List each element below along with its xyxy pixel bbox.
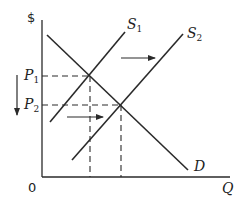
x-axis-label: Q [222,180,234,196]
supply-2-label: S2 [187,25,202,43]
supply-1-label: S1 [127,16,142,34]
y-axis-label: $ [27,10,35,25]
origin-label: 0 [28,180,36,195]
supply-curve-1 [50,32,125,122]
supply-curve-2 [72,34,183,160]
price-2-label: P2 [23,96,39,114]
demand-label: D [193,158,205,174]
supply-demand-diagram: $ 0 Q D S1 S2 P1 P2 [0,0,246,206]
demand-curve [47,35,188,170]
price-1-label: P1 [23,67,39,85]
